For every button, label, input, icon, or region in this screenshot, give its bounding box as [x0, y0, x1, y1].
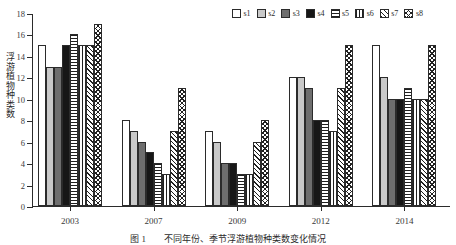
x-axis-tick-label: 2012 — [312, 216, 330, 226]
y-axis-tick-label: 4 — [21, 160, 25, 169]
bar-2009-s8 — [261, 120, 269, 206]
bar-2009-s1 — [205, 131, 213, 206]
bar-2012-s7 — [337, 88, 345, 206]
x-axis-tick — [70, 206, 71, 211]
bar-2012-s2 — [297, 77, 305, 206]
bar-group: 2007 — [117, 14, 201, 206]
bar-group: 2014 — [367, 14, 451, 206]
bar-2003-s1 — [38, 45, 46, 206]
x-axis-tick-label: 2003 — [61, 216, 79, 226]
y-axis-tick-label: 14 — [17, 53, 26, 62]
bar-2009-s6 — [245, 174, 253, 206]
y-axis-tick-label: 2 — [21, 181, 25, 190]
bar-2014-s2 — [380, 77, 388, 206]
plot-area: 02468101214161820032007200920122014 — [32, 14, 450, 207]
x-axis-tick-label: 2007 — [145, 216, 163, 226]
bar-2014-s6 — [412, 99, 420, 206]
bar-2003-s5 — [70, 34, 78, 206]
bar-2003-s2 — [46, 67, 54, 206]
bar-2003-s7 — [86, 45, 94, 206]
bar-2012-s6 — [329, 131, 337, 206]
bar-2014-s7 — [420, 99, 428, 206]
y-axis-tick-label: 18 — [17, 10, 26, 19]
y-axis-tick-label: 0 — [21, 203, 25, 212]
bar-2009-s2 — [213, 142, 221, 206]
x-axis-tick-label: 2009 — [228, 216, 246, 226]
bar-2007-s7 — [170, 131, 178, 206]
y-axis-tick-label: 6 — [21, 138, 25, 147]
x-axis-tick-label: 2014 — [395, 216, 413, 226]
x-axis-tick — [154, 206, 155, 211]
x-axis-tick — [404, 206, 405, 211]
bar-group: 2012 — [284, 14, 368, 206]
bar-2012-s3 — [305, 88, 313, 206]
bar-2012-s5 — [321, 120, 329, 206]
x-axis-tick — [237, 206, 238, 211]
bar-2012-s4 — [313, 120, 321, 206]
bar-2009-s4 — [229, 163, 237, 206]
bar-2007-s4 — [146, 152, 154, 206]
x-axis-tick — [321, 206, 322, 211]
bar-group-bars — [284, 14, 368, 206]
bar-2009-s7 — [253, 142, 261, 206]
bar-2007-s3 — [138, 142, 146, 206]
bar-2012-s8 — [345, 45, 353, 206]
y-axis-tick-label: 16 — [17, 31, 26, 40]
chart-figure: 浮游植物种类数 s1s2s3s4s5s6s7s8 024681012141618… — [0, 0, 456, 245]
bar-2014-s8 — [428, 45, 436, 206]
bar-2009-s3 — [221, 163, 229, 206]
y-axis-tick — [27, 207, 33, 208]
y-axis-tick-label: 8 — [21, 117, 25, 126]
bar-2003-s3 — [54, 67, 62, 206]
bar-2007-s1 — [122, 120, 130, 206]
bar-2003-s8 — [94, 24, 102, 206]
bar-2007-s5 — [154, 163, 162, 206]
bar-2007-s8 — [178, 88, 186, 206]
bar-2014-s1 — [372, 45, 380, 206]
bar-group-bars — [117, 14, 201, 206]
bar-2014-s3 — [388, 99, 396, 206]
y-axis-tick-label: 12 — [17, 74, 26, 83]
bar-2003-s4 — [62, 45, 70, 206]
bar-2007-s2 — [130, 131, 138, 206]
bar-group: 2009 — [200, 14, 284, 206]
bar-2007-s6 — [162, 174, 170, 206]
bar-group-bars — [33, 14, 117, 206]
y-axis-title: 浮游植物种类数 — [2, 52, 15, 119]
bar-2009-s5 — [237, 174, 245, 206]
bar-2014-s5 — [404, 88, 412, 206]
bar-group-bars — [367, 14, 451, 206]
bar-2014-s4 — [396, 99, 404, 206]
y-axis-tick-label: 10 — [17, 96, 26, 105]
bar-group: 2003 — [33, 14, 117, 206]
bar-2012-s1 — [289, 77, 297, 206]
bar-2003-s6 — [78, 45, 86, 206]
figure-caption: 图 1 不同年份、季节浮游植物种类数变化情况 — [0, 234, 456, 245]
bar-group-bars — [200, 14, 284, 206]
